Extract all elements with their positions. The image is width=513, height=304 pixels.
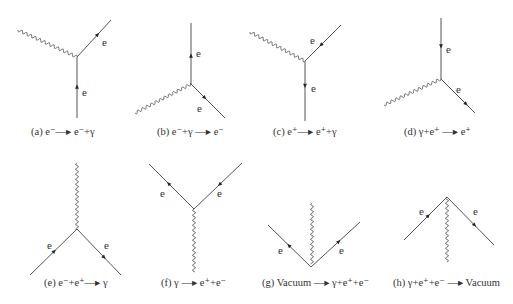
particle-label: e	[419, 205, 424, 217]
panel-b: ee	[135, 23, 225, 118]
panel-h: ee	[404, 197, 494, 262]
particle-label: e	[446, 43, 451, 55]
particle-label: e	[47, 239, 52, 251]
panel-c: ee	[250, 25, 341, 121]
particle-label: e	[196, 47, 201, 59]
caption-e: (e) e⁻+e⁺—▸ γ	[44, 276, 108, 288]
fermion-line	[447, 197, 494, 245]
caption-h: (h) γ+e⁺+e⁻ —▸ Vacuum	[393, 276, 500, 288]
particle-label: e	[217, 187, 222, 199]
photon-line	[310, 203, 313, 264]
arrow-icon	[303, 84, 307, 88]
particle-label: e	[456, 83, 461, 95]
particle-label: e	[160, 187, 165, 199]
particle-label: e	[278, 244, 283, 256]
arrow-icon	[189, 54, 193, 58]
fermion-line	[311, 222, 360, 267]
panel-e: ee	[30, 163, 121, 275]
feynman-diagrams: eeeeeeeeeeeeeeee	[0, 0, 513, 304]
particle-label: e	[82, 86, 87, 98]
photon-line	[250, 32, 305, 62]
caption-b: (b) e⁻+γ —▸ e⁻	[157, 125, 224, 137]
particle-label: e	[310, 34, 315, 46]
particle-label: e	[197, 102, 202, 114]
particle-label: e	[473, 205, 478, 217]
panel-a: ee	[18, 20, 111, 118]
caption-d: (d) γ+e⁺ —▸ e⁺	[404, 125, 471, 137]
photon-line	[384, 79, 441, 106]
panel-d: ee	[384, 18, 475, 113]
panel-g: ee	[268, 203, 360, 267]
caption-a: (a) e⁻—▸ e⁻+γ	[31, 125, 95, 137]
photon-line	[18, 30, 77, 57]
arrow-icon	[75, 84, 79, 88]
particle-label: e	[311, 82, 316, 94]
particle-label: e	[339, 244, 344, 256]
fermion-line	[77, 229, 121, 275]
particle-label: e	[102, 36, 107, 48]
caption-f: (f) γ —▸ e⁺+e⁻	[161, 276, 226, 288]
fermion-line	[404, 197, 447, 240]
particle-label: e	[104, 239, 109, 251]
photon-line	[135, 83, 191, 114]
arrow-icon	[439, 44, 443, 48]
caption-g: (g) Vacuum —▸ γ+e⁺+e⁻	[262, 276, 369, 288]
caption-c: (c) e⁺—▸ e⁺+γ	[273, 125, 337, 137]
panel-f: ee	[149, 163, 242, 272]
fermion-line	[149, 164, 194, 209]
photon-line	[75, 163, 78, 229]
photon-line	[445, 197, 448, 262]
photon-line	[192, 209, 195, 272]
